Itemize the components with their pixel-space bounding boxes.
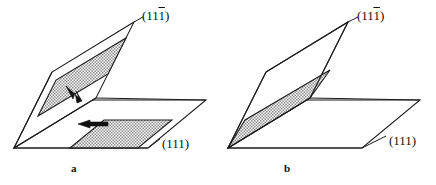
figure-root: (111) (111) a	[0, 0, 436, 185]
plane-label-inclined-a-suffix: )	[165, 8, 169, 23]
panel-a: (111) (111) a	[0, 0, 218, 185]
panel-a-drawing	[0, 0, 218, 185]
panel-b: (111) (111) b	[218, 0, 436, 185]
plane-label-horizontal-b: (111)	[389, 134, 416, 147]
plane-label-inclined-a-prefix: (11	[142, 8, 158, 23]
plane-label-inclined-b-prefix: (11	[357, 8, 373, 23]
plane-label-inclined-b: (111)	[357, 9, 384, 22]
panel-b-drawing	[218, 0, 436, 185]
panel-letter-a: a	[71, 163, 77, 174]
plane-label-horizontal-a: (111)	[162, 137, 189, 150]
panel-letter-b: b	[284, 163, 290, 174]
plane-label-inclined-a: (111)	[142, 9, 169, 22]
plane-label-inclined-b-suffix: )	[380, 8, 384, 23]
